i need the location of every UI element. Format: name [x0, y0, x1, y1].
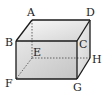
vertex-label-C: C — [79, 38, 87, 51]
vertex-label-H: H — [92, 53, 102, 66]
vertex-label-D: D — [86, 6, 95, 19]
vertex-label-B: B — [5, 36, 13, 49]
vertex-label-G: G — [73, 81, 82, 94]
vertex-label-F: F — [5, 77, 13, 90]
front-face — [16, 41, 77, 79]
vertex-label-A: A — [26, 6, 36, 19]
cuboid-diagram: A D B C E H F G — [0, 0, 105, 94]
vertex-label-E: E — [33, 46, 41, 59]
